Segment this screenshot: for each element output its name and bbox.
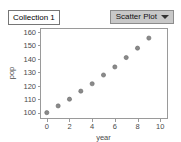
data-points [45,36,151,115]
data-point[interactable] [56,104,60,108]
x-tick-label: 10 [156,122,164,131]
y-tick-label: 100 [23,108,36,117]
chart-canvas: 0246810 100110120130140150160 year pop [0,26,181,142]
x-tick-label: 8 [135,122,139,131]
y-tick-label: 110 [24,95,36,104]
x-tick-label: 6 [113,122,117,131]
plot-type-dropdown[interactable]: Scatter Plot [110,10,174,24]
y-axis-ticks: 100110120130140150160 [23,28,40,118]
data-point[interactable] [101,73,105,77]
x-axis-ticks: 0246810 [45,119,165,132]
scatter-plot-window: Collection 1 Scatter Plot 0246810 100110… [0,0,181,142]
y-tick-label: 140 [23,55,36,64]
x-tick-label: 4 [90,122,94,131]
x-tick-label: 0 [45,122,49,131]
scatter-chart: 0246810 100110120130140150160 year pop [0,26,181,142]
y-tick-label: 150 [23,41,36,50]
y-axis-title: pop [7,67,16,80]
y-tick-label: 160 [23,28,36,37]
plot-type-label: Scatter Plot [116,13,157,21]
data-point[interactable] [147,36,151,40]
x-axis-title: year [96,133,111,142]
x-tick-label: 2 [67,122,71,131]
data-point[interactable] [124,55,128,59]
data-point[interactable] [135,46,139,50]
chevron-down-icon [161,15,169,19]
y-tick-label: 120 [23,82,36,91]
data-point[interactable] [67,97,71,101]
data-point[interactable] [113,65,117,69]
data-point[interactable] [79,89,83,93]
data-point[interactable] [45,111,49,115]
collection-label-text: Collection 1 [13,14,55,22]
collection-label[interactable]: Collection 1 [8,10,60,25]
y-tick-label: 130 [23,68,36,77]
data-point[interactable] [90,82,94,86]
